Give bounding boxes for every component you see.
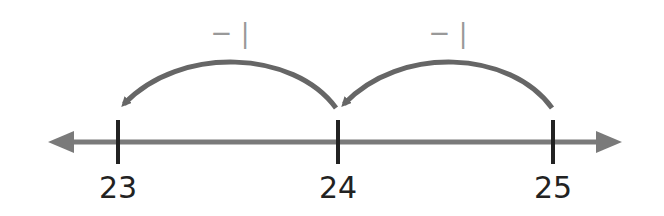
right-arrow-icon: [596, 131, 622, 153]
tick-label-25: 25: [534, 170, 572, 205]
left-arrow-icon: [48, 131, 74, 153]
number-line-diagram: 23 24 25 − | − |: [0, 0, 664, 216]
tick-label-24: 24: [319, 170, 357, 205]
tick-label-23: 23: [99, 170, 137, 205]
jump-label-minus-one: − |: [429, 18, 468, 49]
jump-label-minus-one: − |: [211, 18, 250, 49]
jump-arc-25-to-24: [344, 62, 552, 108]
jump-arc-24-to-23: [124, 62, 336, 108]
